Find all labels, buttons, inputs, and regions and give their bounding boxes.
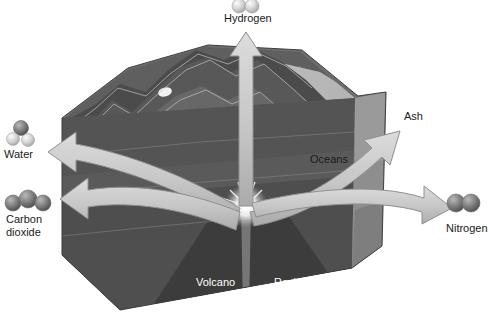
molecule-carbon-dioxide bbox=[5, 190, 51, 211]
label-nitrogen: Nitrogen bbox=[446, 222, 488, 235]
molecule-nitrogen bbox=[447, 194, 480, 212]
label-water: Water bbox=[4, 148, 33, 161]
diagram-illustration bbox=[0, 0, 490, 331]
label-oceans: Oceans bbox=[310, 153, 348, 166]
diagram-canvas: Hydrogen Ash Nitrogen Water Carbon dioxi… bbox=[0, 0, 490, 331]
molecule-water bbox=[7, 121, 35, 147]
label-ash: Ash bbox=[404, 110, 423, 123]
label-rocks-lava-ash: Rocks, lava, ash bbox=[274, 276, 334, 302]
label-carbon-dioxide: Carbon dioxide bbox=[6, 213, 42, 239]
label-hydrogen: Hydrogen bbox=[224, 12, 272, 25]
label-volcano: Volcano bbox=[196, 276, 235, 289]
